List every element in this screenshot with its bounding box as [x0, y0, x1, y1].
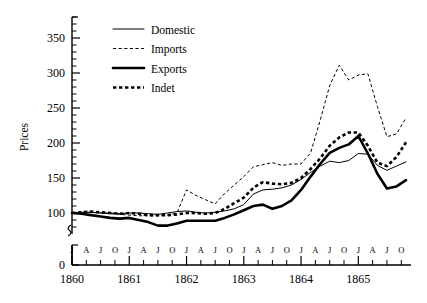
legend-label-exports: Exports [151, 63, 187, 76]
x-year-label: 1865 [346, 272, 370, 286]
x-month-label: J [185, 245, 189, 255]
x-month-label: O [169, 245, 175, 255]
x-month-label: A [312, 245, 319, 255]
x-axis: JAJOJAJOJAJOJAJOJAJOJAJO1860186118621863… [60, 245, 411, 286]
x-year-label: 1863 [232, 272, 256, 286]
y-tick-label: 300 [47, 66, 65, 80]
x-month-label: J [357, 245, 361, 255]
x-month-label: O [226, 245, 232, 255]
legend-label-indet: Indet [151, 82, 175, 94]
y-tick-label: 100 [47, 206, 65, 220]
x-month-label: J [128, 245, 132, 255]
x-year-label: 1864 [289, 272, 313, 286]
y-axis-break-marker [68, 225, 71, 236]
x-month-label: J [156, 245, 160, 255]
legend-label-imports: Imports [151, 43, 187, 56]
data-series-group [72, 65, 406, 225]
x-month-label: A [370, 245, 377, 255]
x-month-label: O [398, 245, 404, 255]
series-line-exports [72, 136, 406, 226]
x-month-label: A [255, 245, 262, 255]
x-year-label: 1862 [175, 272, 199, 286]
y-tick-label: 250 [47, 101, 65, 115]
x-year-label: 1860 [60, 272, 84, 286]
y-tick-label: 200 [47, 136, 65, 150]
x-month-label: J [271, 245, 275, 255]
x-month-label: J [385, 245, 389, 255]
x-year-label: 1861 [117, 272, 141, 286]
x-month-label: O [341, 245, 347, 255]
x-month-label: A [141, 245, 148, 255]
x-month-label: O [284, 245, 290, 255]
x-month-label: J [328, 245, 332, 255]
chart-canvas: 1001502002503003500 JAJOJAJOJAJOJAJOJAJO… [0, 0, 427, 303]
x-month-label: J [99, 245, 103, 255]
y-tick-label: 150 [47, 171, 65, 185]
x-month-label: J [242, 245, 246, 255]
y-axis: 1001502002503003500 [47, 17, 80, 272]
series-line-domestic [72, 154, 406, 215]
x-month-label: J [214, 245, 218, 255]
chart-legend: DomesticImportsExportsIndet [113, 24, 195, 95]
x-month-label: J [299, 245, 303, 255]
price-index-line-chart: 1001502002503003500 JAJOJAJOJAJOJAJOJAJO… [0, 0, 427, 303]
x-month-label: A [83, 245, 90, 255]
series-line-indet [72, 133, 406, 216]
y-zero-label: 0 [59, 258, 65, 272]
y-axis-title: Prices [18, 122, 30, 151]
y-tick-label: 350 [47, 31, 65, 45]
legend-label-domestic: Domestic [151, 24, 195, 36]
x-month-label: O [112, 245, 118, 255]
x-month-label: A [198, 245, 205, 255]
